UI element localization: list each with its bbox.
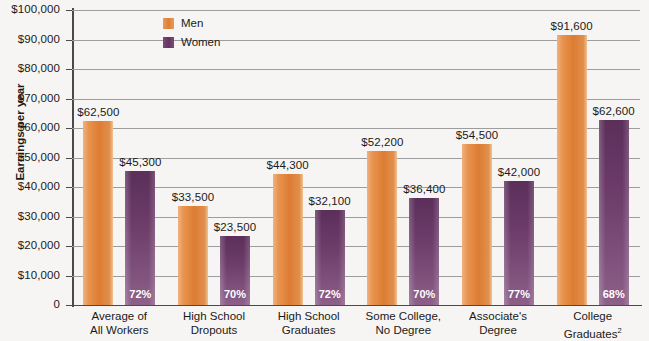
bar-men: $33,500 [178,206,208,305]
bar-women: $42,00077% [504,181,534,305]
y-axis-tick [66,246,72,247]
bar-value-label-women: $62,600 [593,105,635,117]
bar-men: $62,500 [83,121,113,305]
gridline [72,187,640,188]
bar-value-label-women: $23,500 [214,221,256,233]
y-axis-tick-label: $20,000 [0,239,60,251]
gridline [72,69,640,70]
gridline [72,246,640,247]
y-axis-tick [66,158,72,159]
bar-value-label-women: $45,300 [119,156,161,168]
y-axis-tick [66,276,72,277]
gridline [72,99,640,100]
x-axis-category-label: High SchoolDropouts [167,310,262,337]
y-axis-tick [66,69,72,70]
gridline [72,10,640,11]
bar-ratio-label: 70% [409,288,439,300]
y-axis-tick-label: $60,000 [0,121,60,133]
bar-ratio-label: 68% [599,288,629,300]
legend-swatch-women-icon [163,37,174,48]
bar-men: $91,600 [557,35,587,305]
gridline [72,128,640,129]
bar-value-label-women: $32,100 [309,195,351,207]
x-axis-category-label: Some College,No Degree [356,310,451,337]
bar-ratio-label: 77% [504,288,534,300]
bar-women: $62,60068% [599,120,629,305]
y-axis-tick-label: $70,000 [0,92,60,104]
bar-value-label-men: $44,300 [267,159,309,171]
gridline [72,217,640,218]
y-axis-tick [66,305,72,306]
y-axis-tick-label: 0 [0,298,60,310]
plot-area: $62,500$45,30072%$33,500$23,50070%$44,30… [72,10,640,305]
bar-value-label-men: $33,500 [172,191,214,203]
y-axis-tick [66,10,72,11]
legend-label-men: Men [181,17,203,29]
x-axis-category-label: CollegeGraduates2 [545,310,640,341]
y-axis-tick-label: $80,000 [0,62,60,74]
y-axis-tick-label: $50,000 [0,151,60,163]
y-axis-tick [66,99,72,100]
legend: Men Women [163,15,220,53]
x-axis-category-label: Associate'sDegree [451,310,546,337]
legend-item-men: Men [163,15,220,31]
bar-value-label-men: $52,200 [361,136,403,148]
bar-women: $36,40070% [409,198,439,305]
x-axis-category-label: High SchoolGraduates [261,310,356,337]
x-axis-category-label: Average ofAll Workers [72,310,167,337]
y-axis-tick-label: $10,000 [0,269,60,281]
y-axis-tick-label: $30,000 [0,210,60,222]
y-axis-tick [66,128,72,129]
bar-value-label-men: $54,500 [456,129,498,141]
y-axis-tick [66,40,72,41]
bar-women: $23,50070% [220,236,250,305]
y-axis-tick [66,187,72,188]
legend-item-women: Women [163,34,220,50]
y-axis-tick-label: $40,000 [0,180,60,192]
legend-label-women: Women [181,36,220,48]
bar-ratio-label: 72% [125,288,155,300]
bar-women: $32,10072% [315,210,345,305]
bar-men: $52,200 [367,151,397,305]
y-axis-tick-label: $90,000 [0,33,60,45]
bar-value-label-women: $36,400 [403,183,445,195]
bar-value-label-men: $62,500 [77,106,119,118]
gridline [72,40,640,41]
y-axis-tick [66,217,72,218]
bar-value-label-women: $42,000 [498,166,540,178]
bar-women: $45,30072% [125,171,155,305]
bar-men: $44,300 [273,174,303,305]
bar-ratio-label: 70% [220,288,250,300]
bar-men: $54,500 [462,144,492,305]
bar-ratio-label: 72% [315,288,345,300]
gridline [72,276,640,277]
bar-value-label-men: $91,600 [551,20,593,32]
y-axis-tick-label: $100,000 [0,3,60,15]
legend-swatch-men-icon [163,18,174,29]
